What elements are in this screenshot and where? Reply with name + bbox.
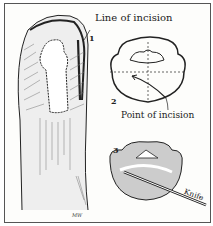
panel-number-1: 1: [89, 33, 95, 43]
panel-number-2: 2: [111, 96, 117, 106]
cross-section-diagram: [110, 37, 186, 110]
finger-drawing: [18, 15, 88, 210]
point-of-incision-label: Point of incision: [121, 110, 194, 120]
line-of-incision-label: Line of incision: [95, 12, 173, 23]
artist-signature: MW: [72, 212, 82, 218]
panel-number-3: 3: [113, 145, 119, 155]
